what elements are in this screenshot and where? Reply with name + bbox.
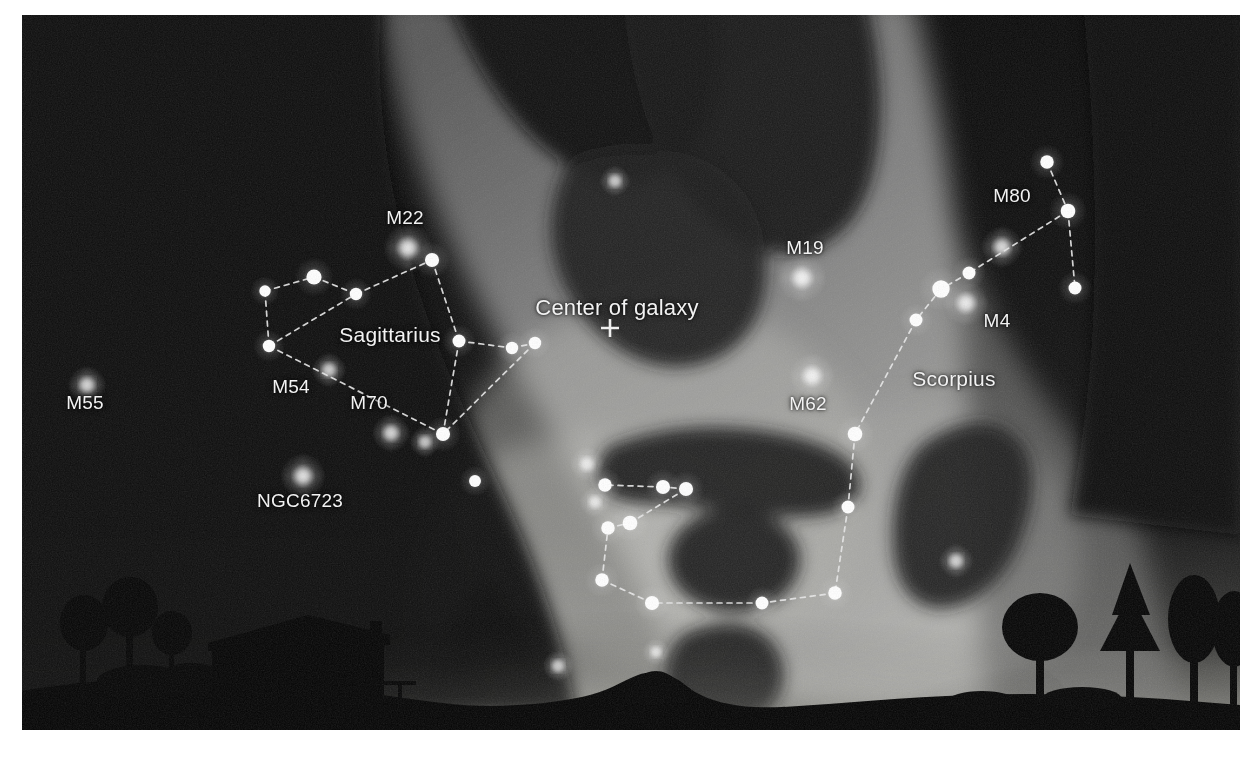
film-grain: [22, 15, 1240, 730]
sky-photograph-plate: Center of galaxySagittariusScorpiusM22M5…: [22, 15, 1240, 730]
sky-chart-page: Center of galaxySagittariusScorpiusM22M5…: [0, 0, 1258, 763]
sky-canvas: [22, 15, 1240, 730]
